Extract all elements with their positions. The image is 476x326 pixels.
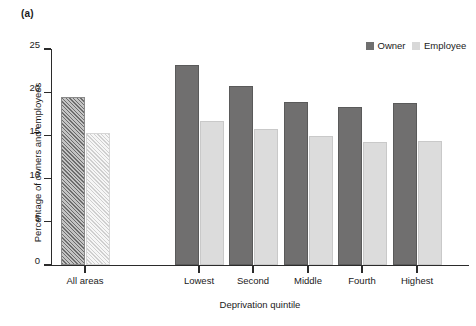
y-axis-tick-label: 25	[14, 40, 40, 50]
bar-owner-all-areas	[61, 97, 85, 265]
x-axis-tick	[307, 266, 308, 273]
x-axis-tick-label: Second	[237, 275, 269, 286]
x-axis-tick-label: All areas	[67, 275, 104, 286]
legend-entry-employee: Employee	[412, 41, 466, 51]
x-axis-tick	[416, 266, 417, 273]
x-axis-tick-label: Lowest	[184, 275, 214, 286]
x-axis-title: Deprivation quintile	[50, 299, 470, 310]
x-axis-tick	[361, 266, 362, 273]
x-axis-tick-label: Fourth	[348, 275, 375, 286]
y-axis-tick	[44, 92, 51, 93]
bar-owner-lowest	[175, 65, 199, 265]
bar-owner-fourth	[338, 107, 362, 265]
panel-label: (a)	[21, 8, 34, 19]
y-axis-tick	[44, 178, 51, 179]
chart-legend: OwnerEmployee	[366, 41, 466, 51]
bar-employee-fourth	[363, 142, 387, 265]
bar-owner-middle	[284, 102, 308, 265]
bar-employee-lowest	[200, 121, 224, 265]
y-axis-tick	[44, 264, 51, 265]
y-axis-tick-label: 15	[14, 126, 40, 136]
x-axis-tick	[252, 266, 253, 273]
x-axis-tick-label: Middle	[294, 275, 322, 286]
x-axis-line	[51, 265, 469, 266]
y-axis-tick	[44, 221, 51, 222]
y-axis-tick-label: 10	[14, 170, 40, 180]
plot-area	[51, 49, 469, 265]
y-axis-tick-label: 0	[14, 256, 40, 266]
chart-figure: (a) Percentage of owners and employees D…	[0, 0, 476, 326]
x-axis-tick	[198, 266, 199, 273]
bar-owner-second	[229, 86, 253, 265]
y-axis-tick	[44, 48, 51, 49]
legend-swatch-icon	[412, 42, 420, 50]
bar-employee-second	[254, 129, 278, 266]
legend-label: Owner	[378, 41, 406, 51]
legend-label: Employee	[424, 41, 466, 51]
bar-employee-highest	[418, 141, 442, 265]
bar-employee-middle	[309, 136, 333, 265]
y-axis-tick-label: 20	[14, 83, 40, 93]
bar-owner-highest	[393, 103, 417, 265]
legend-swatch-icon	[366, 42, 374, 50]
legend-entry-owner: Owner	[366, 41, 405, 51]
x-axis-tick-label: Highest	[401, 275, 433, 286]
bar-employee-all-areas	[86, 133, 110, 265]
x-axis-tick	[84, 266, 85, 273]
y-axis-tick-label: 5	[14, 213, 40, 223]
y-axis-tick	[44, 135, 51, 136]
